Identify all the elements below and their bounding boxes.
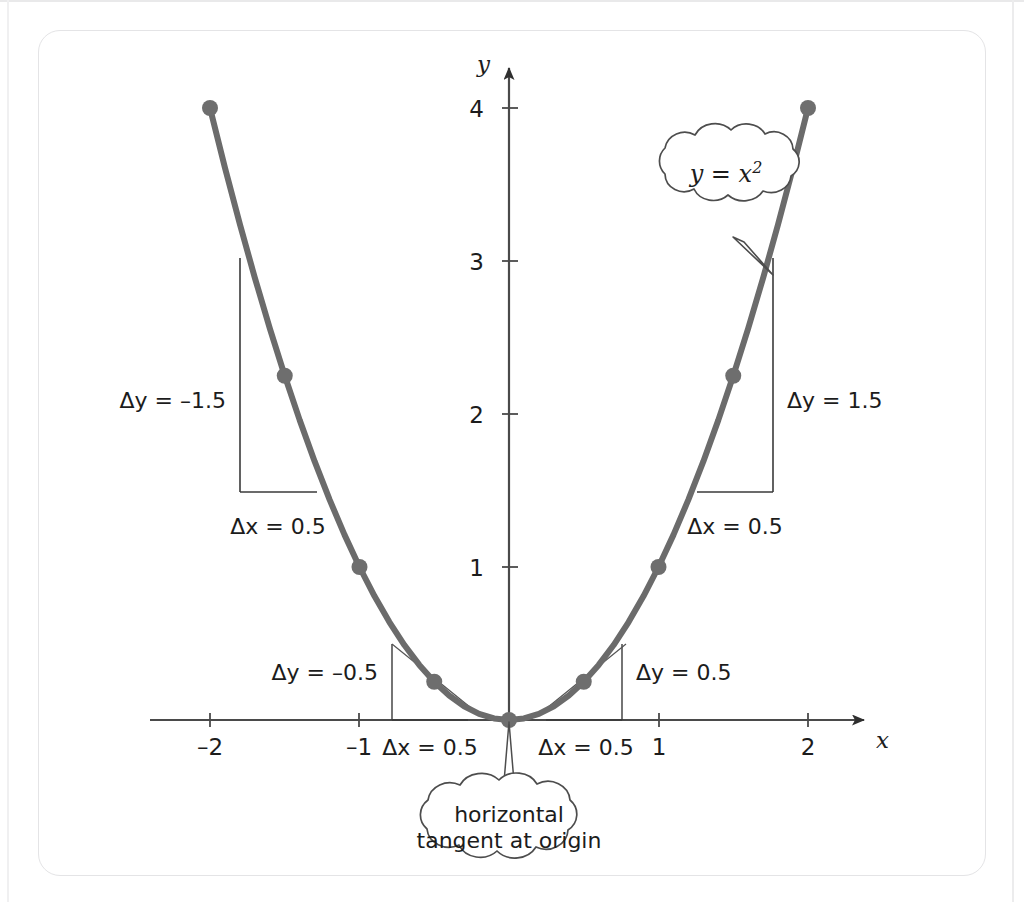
page-edge-left	[7, 0, 9, 902]
x-tick-label-plus2: 2	[801, 734, 816, 760]
origin-bubble-line2: tangent at origin	[417, 828, 602, 853]
function-bubble-base: y = x	[689, 160, 753, 188]
function-bubble-text: y = x2	[689, 158, 763, 188]
difference-triangle-right-small: Δy = 0.5 Δx = 0.5	[538, 644, 731, 760]
y-tick-label-2: 2	[469, 402, 484, 428]
triangle-left-small-dy-label: Δy = –0.5	[272, 660, 378, 685]
y-tick-label-4: 4	[469, 96, 484, 122]
triangle-right-small-dx-label: Δx = 0.5	[538, 735, 633, 760]
x-tick-label-minus2: –2	[197, 734, 223, 760]
triangle-left-large-dx-label: Δx = 0.5	[230, 514, 325, 539]
y-axis-label: y	[476, 51, 491, 77]
curve-point	[800, 100, 816, 116]
x-tick-label-plus1: 1	[652, 734, 667, 760]
page-canvas: y x 4 3 2 1 –2 –1 1 2 Δy = –1.5 Δx =	[0, 0, 1024, 902]
curve-point	[426, 674, 442, 690]
x-tick-label-minus1: –1	[346, 734, 372, 760]
triangle-left-large-dy-label: Δy = –1.5	[120, 388, 226, 413]
triangle-right-small-dy-label: Δy = 0.5	[636, 660, 731, 685]
y-tick-label-3: 3	[469, 249, 484, 275]
curve-point	[202, 100, 218, 116]
triangle-left-small-dx-label: Δx = 0.5	[382, 735, 477, 760]
parabola-diagram-svg: y x 4 3 2 1 –2 –1 1 2 Δy = –1.5 Δx =	[38, 30, 986, 876]
curve-point	[277, 368, 293, 384]
figure-container: y x 4 3 2 1 –2 –1 1 2 Δy = –1.5 Δx =	[38, 30, 986, 876]
difference-triangle-right-large: Δy = 1.5 Δx = 0.5	[687, 258, 882, 539]
page-edge-top	[0, 0, 1024, 2]
curve-point	[725, 368, 741, 384]
function-bubble-exponent: 2	[751, 158, 762, 177]
origin-bubble-line1: horizontal	[454, 802, 564, 827]
function-thought-bubble: y = x2	[659, 124, 799, 275]
difference-triangle-left-small: Δy = –0.5 Δx = 0.5	[272, 644, 478, 760]
curve-point	[651, 559, 667, 575]
triangle-right-large-dx-label: Δx = 0.5	[687, 514, 782, 539]
curve-point	[576, 674, 592, 690]
page-edge-right	[1012, 0, 1014, 902]
x-axis-label: x	[876, 727, 889, 753]
triangle-right-large-dy-label: Δy = 1.5	[787, 388, 882, 413]
y-tick-label-1: 1	[469, 555, 484, 581]
curve-point	[352, 559, 368, 575]
